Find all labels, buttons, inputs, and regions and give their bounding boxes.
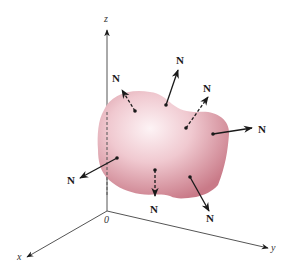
n-label-upper-right-inner: N — [203, 82, 211, 94]
z-axis-label: z — [103, 13, 108, 24]
closed-surface — [98, 91, 229, 199]
n-label-left: N — [67, 174, 75, 186]
x-axis-label: x — [16, 251, 22, 262]
n-label-top: N — [176, 54, 184, 66]
y-axis — [107, 211, 268, 248]
n-label-upper-left: N — [112, 72, 120, 84]
origin-label: 0 — [104, 214, 109, 225]
y-axis-label: y — [270, 242, 276, 253]
n-label-bottom-center: N — [150, 203, 158, 215]
n-label-right: N — [258, 123, 266, 135]
surface-normals-diagram: z x y 0 — [0, 0, 291, 276]
x-axis — [27, 211, 107, 257]
n-label-bottom-right: N — [206, 212, 214, 224]
